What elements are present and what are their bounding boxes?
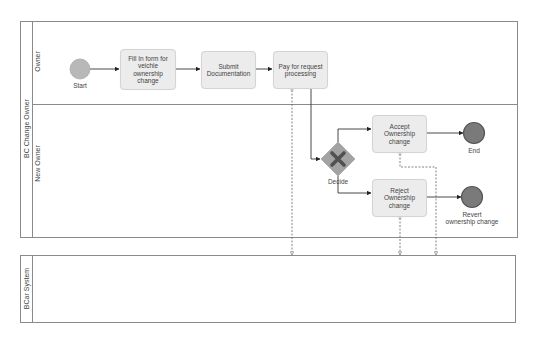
diagram-graphics <box>0 0 537 341</box>
pool-bc-change-owner[interactable] <box>21 22 518 238</box>
revert-event-label-line2: ownership change <box>442 218 502 226</box>
task-fill-form[interactable]: Fill In form for veichle ownership chang… <box>120 49 176 90</box>
pool-label-bcar-system: BCar System <box>23 264 30 314</box>
start-event-icon[interactable] <box>70 59 90 79</box>
lane-label-owner: Owner <box>34 42 41 82</box>
task-submit-documentation[interactable]: Submit Documentation <box>201 51 256 89</box>
task-accept-ownership[interactable]: Accept Ownership change <box>372 115 427 153</box>
pool-bcar-system[interactable] <box>21 256 516 323</box>
task-pay-for-request[interactable]: Pay for request processing <box>273 51 328 89</box>
end-event-icon[interactable] <box>464 123 485 144</box>
pool-label-bc-change-owner: BC Change Owner <box>23 93 30 165</box>
task-reject-ownership[interactable]: Reject Ownership change <box>372 179 427 217</box>
gateway-label: Decide <box>323 178 353 186</box>
lane-label-new-owner: New Owner <box>34 139 41 189</box>
bpmn-diagram-canvas: BC Change Owner Owner New Owner BCar Sys… <box>0 0 537 341</box>
revert-end-event-icon[interactable] <box>462 187 483 208</box>
start-event-label: Start <box>65 82 95 90</box>
end-event-label: End <box>459 147 489 155</box>
